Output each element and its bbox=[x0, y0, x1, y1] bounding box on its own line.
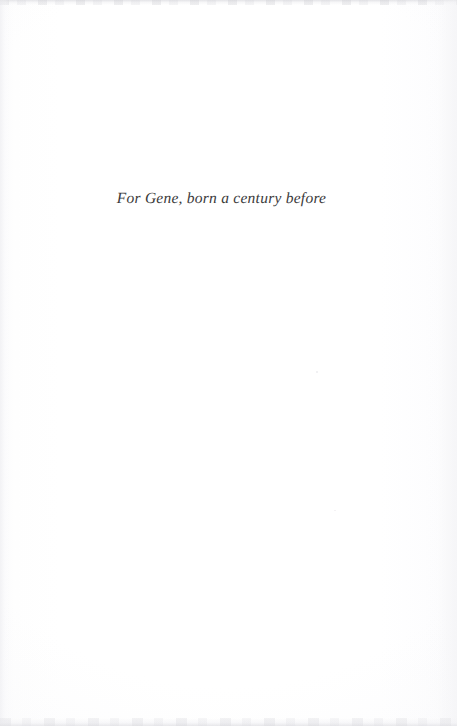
scan-speck bbox=[316, 371, 318, 373]
scan-speck bbox=[334, 510, 336, 511]
dedication-page: For Gene, born a century before bbox=[0, 0, 457, 726]
dedication-block: For Gene, born a century before bbox=[0, 189, 457, 208]
dedication-text: For Gene, born a century before bbox=[117, 189, 327, 208]
scan-artifact-top-edge bbox=[0, 0, 457, 5]
scan-artifact-left-edge bbox=[0, 0, 10, 726]
paper-background bbox=[0, 0, 457, 726]
scan-artifact-bottom-edge bbox=[0, 718, 457, 726]
scan-artifact-right-edge bbox=[423, 0, 457, 726]
